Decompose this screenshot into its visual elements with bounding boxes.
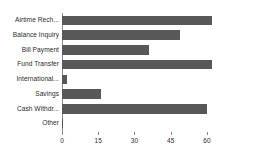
x-axis-tick-mark — [134, 132, 135, 135]
bar-row — [62, 102, 248, 117]
x-axis-tick-label: 30 — [122, 137, 146, 144]
category-label: Fund Transfer — [0, 57, 59, 72]
x-axis-tick-label: 60 — [195, 137, 219, 144]
x-axis-tick-mark — [207, 132, 208, 135]
bar — [62, 30, 180, 40]
x-axis-tick-mark — [171, 132, 172, 135]
bar-row — [62, 57, 248, 72]
plot-area — [62, 13, 248, 131]
bar — [62, 16, 212, 26]
bar-row — [62, 43, 248, 58]
x-axis-tick-mark — [98, 132, 99, 135]
category-label: Airtime Rech... — [0, 13, 59, 28]
category-label: International... — [0, 72, 59, 87]
x-axis-tick-label: 0 — [50, 137, 74, 144]
bar-row — [62, 87, 248, 102]
x-axis-tick-mark — [62, 132, 63, 135]
category-label: Bill Payment — [0, 43, 59, 58]
bar — [62, 89, 101, 99]
category-label-column: Airtime Rech...Balance InquiryBill Payme… — [0, 13, 59, 131]
bar — [62, 119, 63, 129]
bar — [62, 75, 67, 85]
category-label: Cash Withdr... — [0, 102, 59, 117]
bar-row — [62, 72, 248, 87]
bar — [62, 104, 207, 114]
category-label: Savings — [0, 87, 59, 102]
bar-row — [62, 13, 248, 28]
bar-chart: Airtime Rech...Balance InquiryBill Payme… — [0, 0, 255, 160]
x-axis-tick-label: 45 — [159, 137, 183, 144]
bar — [62, 60, 212, 70]
category-label: Other — [0, 116, 59, 131]
x-axis-tick-label: 15 — [86, 137, 110, 144]
bar — [62, 45, 149, 55]
category-label: Balance Inquiry — [0, 28, 59, 43]
bar-row — [62, 28, 248, 43]
bar-row — [62, 116, 248, 131]
